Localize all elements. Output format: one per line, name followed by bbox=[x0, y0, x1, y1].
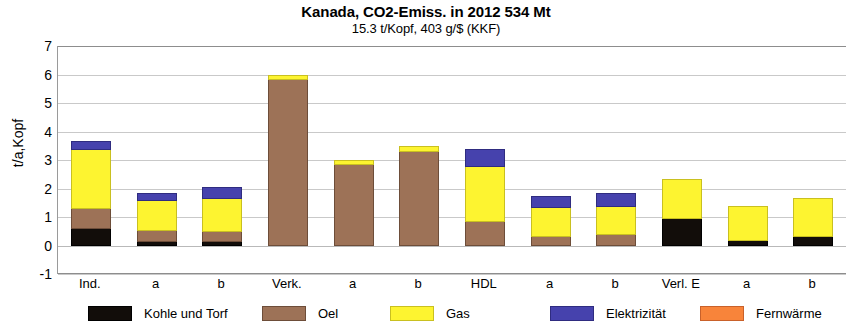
y-axis-tick-2: 5 bbox=[24, 98, 52, 108]
bar-segment-elek bbox=[137, 193, 177, 201]
bar-segment-oel bbox=[465, 221, 505, 246]
bar-segment-oel bbox=[71, 208, 111, 229]
plot-area bbox=[57, 46, 845, 274]
bar-b-5[interactable] bbox=[399, 46, 439, 274]
bar-segment-oel bbox=[531, 236, 571, 247]
x-axis-tick-labels: Ind.abVerk.abHDLabVerl. Eab bbox=[57, 276, 845, 296]
legend-swatch-gas-icon bbox=[390, 306, 434, 321]
legend-item-elek[interactable]: Elektrizität bbox=[550, 303, 666, 323]
bar-segment-oel bbox=[399, 151, 439, 246]
bar-segment-gas bbox=[728, 206, 768, 241]
bar-segment-elek bbox=[202, 187, 242, 199]
bar-verk-3[interactable] bbox=[268, 46, 308, 274]
y-axis-tick-4: 3 bbox=[24, 155, 52, 165]
legend-label-fern: Fernwärme bbox=[756, 306, 822, 321]
legend-swatch-fern-icon bbox=[700, 306, 744, 321]
x-axis-line bbox=[58, 273, 846, 274]
bar-verle-9[interactable] bbox=[662, 46, 702, 274]
y-axis-tick-0: 7 bbox=[24, 41, 52, 51]
bar-segment-gas bbox=[399, 146, 439, 153]
chart-legend: Kohle und TorfOelGasElektrizitätFernwärm… bbox=[0, 303, 852, 325]
legend-swatch-oel-icon bbox=[262, 306, 306, 321]
bar-segment-gas bbox=[334, 160, 374, 165]
y-axis-tick-5: 2 bbox=[24, 184, 52, 194]
legend-swatch-kohle-icon bbox=[88, 306, 132, 321]
y-axis-tick-7: 0 bbox=[24, 241, 52, 251]
bar-segment-gas bbox=[137, 200, 177, 231]
bar-segment-elek bbox=[71, 141, 111, 149]
bar-segment-gas bbox=[465, 166, 505, 223]
legend-label-gas: Gas bbox=[446, 306, 470, 321]
y-axis-tick-labels: 76543210-1 bbox=[24, 46, 52, 274]
bar-hdl-6[interactable] bbox=[465, 46, 505, 274]
bar-a-7[interactable] bbox=[531, 46, 571, 274]
bar-segment-elek bbox=[596, 193, 636, 207]
bar-segment-kohle bbox=[728, 240, 768, 247]
bar-a-4[interactable] bbox=[334, 46, 374, 274]
chart-canvas: t/a,Kopf 76543210-1 Ind.abVerk.abHDLabVe… bbox=[0, 0, 852, 326]
bar-segment-kohle bbox=[793, 236, 833, 247]
bar-segment-gas bbox=[202, 198, 242, 232]
legend-item-oel[interactable]: Oel bbox=[262, 303, 338, 323]
bar-segment-gas bbox=[793, 198, 833, 236]
bar-segment-kohle bbox=[662, 218, 702, 246]
bar-segment-oel bbox=[137, 230, 177, 242]
bar-b-11[interactable] bbox=[793, 46, 833, 274]
legend-label-oel: Oel bbox=[318, 306, 338, 321]
bar-segment-kohle bbox=[71, 228, 111, 246]
bar-ind-0[interactable] bbox=[71, 46, 111, 274]
bar-segment-oel bbox=[268, 79, 308, 247]
bar-segment-elek bbox=[531, 196, 571, 208]
legend-label-kohle: Kohle und Torf bbox=[144, 306, 228, 321]
bar-segment-gas bbox=[531, 207, 571, 237]
bar-a-1[interactable] bbox=[137, 46, 177, 274]
legend-swatch-elek-icon bbox=[550, 306, 594, 321]
y-axis-tick-8: -1 bbox=[24, 269, 52, 279]
bar-segment-gas bbox=[662, 179, 702, 220]
y-axis-tick-6: 1 bbox=[24, 212, 52, 222]
bar-segment-oel bbox=[334, 164, 374, 246]
bar-segment-gas bbox=[268, 75, 308, 80]
x-axis-label-11: b bbox=[772, 276, 852, 292]
bar-b-2[interactable] bbox=[202, 46, 242, 274]
legend-item-kohle[interactable]: Kohle und Torf bbox=[88, 303, 228, 323]
bar-segment-gas bbox=[596, 206, 636, 236]
bar-segment-oel bbox=[202, 231, 242, 242]
legend-item-gas[interactable]: Gas bbox=[390, 303, 470, 323]
legend-label-elek: Elektrizität bbox=[606, 306, 666, 321]
bar-segment-oel bbox=[596, 234, 636, 246]
bar-segment-elek bbox=[465, 149, 505, 167]
bar-segment-gas bbox=[71, 149, 111, 210]
legend-item-fern[interactable]: Fernwärme bbox=[700, 303, 822, 323]
y-axis-tick-1: 6 bbox=[24, 70, 52, 80]
bar-b-8[interactable] bbox=[596, 46, 636, 274]
bar-a-10[interactable] bbox=[728, 46, 768, 274]
y-axis-tick-3: 4 bbox=[24, 127, 52, 137]
gridline--1 bbox=[58, 274, 846, 275]
